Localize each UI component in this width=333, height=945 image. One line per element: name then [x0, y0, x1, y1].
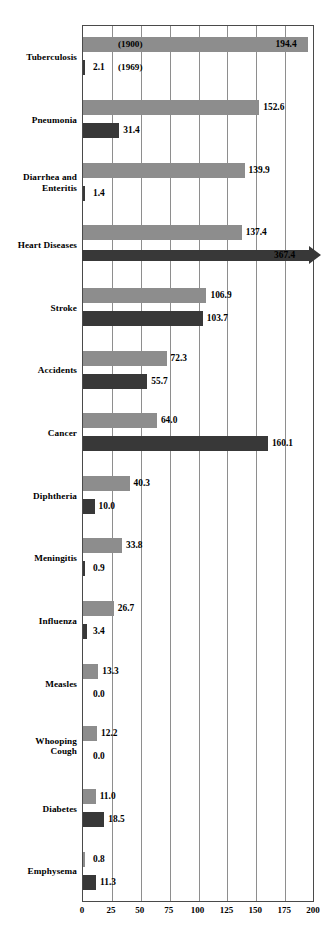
value-label-0.9: 0.9	[93, 561, 105, 576]
value-label-33.8: 33.8	[126, 538, 142, 553]
category-label-line: Whooping	[0, 736, 77, 747]
value-label-367.4: 367.4	[274, 248, 295, 263]
value-label-0.8: 0.8	[93, 852, 105, 867]
gridline-175	[285, 26, 286, 901]
x-tick-label-75: 75	[164, 905, 173, 915]
bar-diabetes-1969	[83, 812, 104, 827]
value-label-10.0: 10.0	[99, 499, 115, 514]
gridline-25	[112, 26, 113, 901]
category-label-line: Cancer	[0, 428, 77, 439]
bar-meningitis-1900	[83, 538, 122, 553]
value-label-103.7: 103.7	[207, 311, 228, 326]
bar-diphtheria-1900	[83, 476, 130, 491]
value-label-40.3: 40.3	[134, 476, 150, 491]
value-label-26.7: 26.7	[118, 601, 134, 616]
bar-tuberculosis-1969	[83, 60, 85, 75]
bar-influenza-1900	[83, 601, 114, 616]
category-label-line: Meningitis	[0, 553, 77, 564]
bar-pneumonia-1969	[83, 123, 119, 138]
category-label-heart-diseases: Heart Diseases	[0, 240, 77, 251]
category-label-line: Pneumonia	[0, 115, 77, 126]
value-label-11.0: 11.0	[100, 789, 116, 804]
plot-area	[82, 25, 314, 902]
category-label-line: Cough	[0, 746, 77, 757]
bar-cancer-1900	[83, 413, 157, 428]
category-label-stroke: Stroke	[0, 303, 77, 314]
category-label-diabetes: Diabetes	[0, 804, 77, 815]
bar-diabetes-1900	[83, 789, 96, 804]
value-label-2.1: 2.1	[93, 60, 105, 75]
value-label-152.6: 152.6	[263, 100, 284, 115]
bar-accidents-1900	[83, 351, 167, 366]
category-label-diphtheria: Diphtheria	[0, 491, 77, 502]
value-label-72.3: 72.3	[171, 351, 187, 366]
x-tick-label-175: 175	[277, 905, 291, 915]
bar-measles-1900	[83, 664, 98, 679]
gridline-100	[199, 26, 200, 901]
category-label-pneumonia: Pneumonia	[0, 115, 77, 126]
category-label-line: Measles	[0, 679, 77, 690]
category-label-tuberculosis: Tuberculosis	[0, 52, 77, 63]
x-tick-label-100: 100	[191, 905, 205, 915]
category-label-line: Enteritis	[0, 183, 77, 194]
category-label-whooping-cough: WhoopingCough	[0, 736, 77, 757]
bar-cancer-1969	[83, 436, 268, 451]
bar-diarrhea-and-enteritis-1969	[83, 186, 85, 201]
bar-diarrhea-and-enteritis-1900	[83, 163, 245, 178]
value-label-18.5: 18.5	[108, 812, 124, 827]
bar-emphysema-1900	[83, 852, 85, 867]
value-label-3.4: 3.4	[93, 624, 105, 639]
x-tick-label-25: 25	[106, 905, 115, 915]
category-label-line: Tuberculosis	[0, 52, 77, 63]
category-label-line: Diarrhea and	[0, 172, 77, 183]
bar-pneumonia-1900	[83, 100, 259, 115]
bar-accidents-1969	[83, 374, 147, 389]
gridline-75	[170, 26, 171, 901]
gridline-150	[256, 26, 257, 901]
bar-tuberculosis-1900	[83, 37, 308, 52]
category-label-diarrhea-and-enteritis: Diarrhea andEnteritis	[0, 172, 77, 193]
value-label-194.4: 194.4	[276, 37, 297, 52]
value-label-137.4: 137.4	[246, 225, 267, 240]
category-label-influenza: Influenza	[0, 616, 77, 627]
bar-stroke-1969	[83, 311, 203, 326]
bar-heart-diseases-1900	[83, 225, 242, 240]
category-label-line: Stroke	[0, 303, 77, 314]
bar-emphysema-1969	[83, 875, 96, 890]
x-tick-label-50: 50	[135, 905, 144, 915]
bar-diphtheria-1969	[83, 499, 95, 514]
value-label-13.3: 13.3	[102, 664, 118, 679]
category-label-line: Heart Diseases	[0, 240, 77, 251]
bar-arrow-head-icon	[309, 246, 321, 264]
category-label-line: Diphtheria	[0, 491, 77, 502]
category-label-cancer: Cancer	[0, 428, 77, 439]
category-label-line: Influenza	[0, 616, 77, 627]
value-label-0.0: 0.0	[93, 749, 105, 764]
value-label-160.1: 160.1	[272, 436, 293, 451]
year-annotation-1969: (1969)	[118, 60, 143, 75]
category-label-accidents: Accidents	[0, 365, 77, 376]
value-label-12.2: 12.2	[101, 726, 117, 741]
category-label-measles: Measles	[0, 679, 77, 690]
year-annotation-1900: (1900)	[118, 37, 143, 52]
category-label-meningitis: Meningitis	[0, 553, 77, 564]
bar-influenza-1969	[83, 624, 87, 639]
value-label-139.9: 139.9	[249, 163, 270, 178]
value-label-1.4: 1.4	[93, 186, 105, 201]
value-label-106.9: 106.9	[210, 288, 231, 303]
value-label-31.4: 31.4	[123, 123, 139, 138]
x-tick-label-200: 200	[306, 905, 320, 915]
value-label-64.0: 64.0	[161, 413, 177, 428]
bar-whooping-cough-1900	[83, 726, 97, 741]
bar-chart: TuberculosisPneumoniaDiarrhea andEnterit…	[0, 0, 333, 945]
x-tick-label-150: 150	[249, 905, 263, 915]
value-label-0.0: 0.0	[93, 687, 105, 702]
bar-stroke-1900	[83, 288, 206, 303]
value-label-55.7: 55.7	[151, 374, 167, 389]
x-tick-label-0: 0	[80, 905, 85, 915]
gridline-125	[227, 26, 228, 901]
gridline-50	[141, 26, 142, 901]
category-label-line: Emphysema	[0, 866, 77, 877]
x-tick-label-125: 125	[220, 905, 234, 915]
bar-meningitis-1969	[83, 561, 85, 576]
